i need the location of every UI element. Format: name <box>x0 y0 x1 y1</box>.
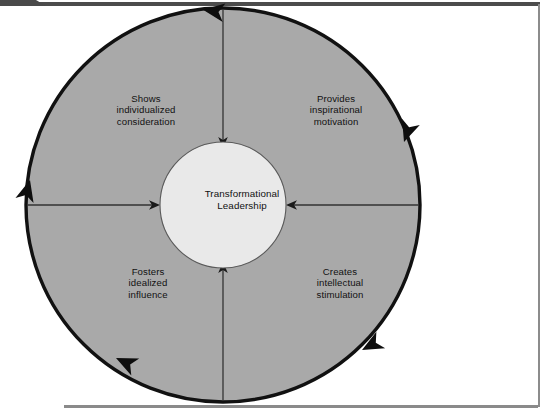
cycle-diagram <box>0 0 542 419</box>
figure-page: Shows individualized consideration Provi… <box>0 0 542 419</box>
hub-circle <box>160 142 286 268</box>
